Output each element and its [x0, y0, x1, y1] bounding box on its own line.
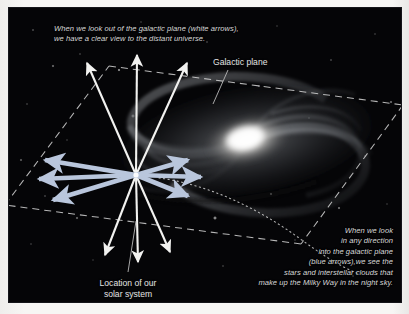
label-solar-system: Location of our solar system [76, 278, 180, 300]
sky-plate: When we look out of the galactic plane (… [9, 8, 401, 302]
sun-position-marker [133, 172, 138, 177]
caption-out-of-plane: When we look out of the galactic plane (… [54, 24, 289, 45]
label-galactic-plane: Galactic plane [213, 57, 267, 68]
figure-frame: When we look out of the galactic plane (… [0, 0, 409, 314]
plane-edge-left [9, 66, 109, 205]
caption-into-plane: When we look in any direction into the g… [203, 226, 393, 288]
white-arrow-up [136, 55, 137, 175]
leader-line-solar-system [128, 221, 136, 272]
